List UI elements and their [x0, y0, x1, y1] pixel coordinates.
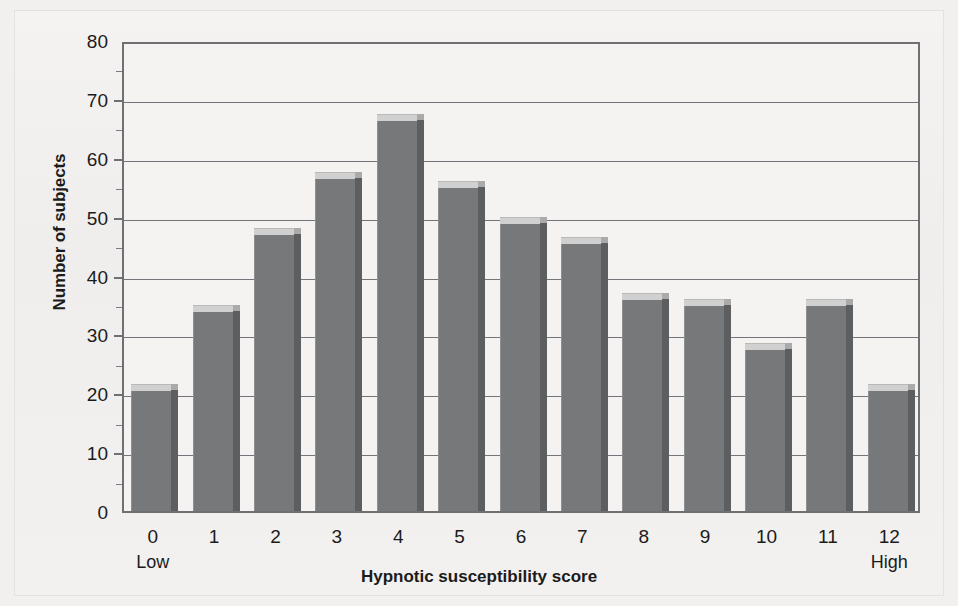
bar-top-side-face	[233, 305, 240, 311]
bar-front-face	[745, 349, 786, 511]
x-axis-tick-label: 11	[798, 527, 858, 546]
y-axis-tick-mark	[114, 394, 122, 396]
bar-chart-figure: Number of subjects 01020304050607080 012…	[0, 0, 958, 606]
bar-top-side-face	[908, 384, 915, 390]
y-axis-tick-label: 50	[48, 209, 108, 228]
bar-front-face	[193, 311, 234, 511]
bar-top-face	[254, 228, 294, 235]
y-axis-tick-label: 30	[48, 326, 108, 345]
bar	[131, 384, 178, 511]
plot-area	[122, 42, 920, 513]
bar-front-face	[377, 120, 418, 511]
bar	[622, 293, 669, 511]
y-axis-tick-label: 0	[48, 503, 108, 522]
bar	[500, 217, 547, 511]
y-axis-tick-mark	[114, 335, 122, 337]
y-axis-tick-mark	[114, 453, 122, 455]
x-axis-tick-label: 3	[307, 527, 367, 546]
bar-front-face	[315, 178, 356, 511]
bar	[438, 181, 485, 511]
x-axis-tick-label: 0	[123, 527, 183, 546]
x-axis-tick-label: 10	[737, 527, 797, 546]
bar-side-face	[233, 311, 240, 511]
bar-top-face	[561, 237, 601, 244]
bar-side-face	[355, 178, 362, 511]
x-axis-tick-label: 7	[552, 527, 612, 546]
x-axis-title: Hypnotic susceptibility score	[0, 567, 958, 587]
bar-front-face	[868, 390, 909, 511]
bar-top-side-face	[662, 293, 669, 299]
bar-top-side-face	[601, 237, 608, 243]
bar	[868, 384, 915, 511]
bar-front-face	[561, 243, 602, 511]
x-axis-tick-label: 8	[614, 527, 674, 546]
bar	[193, 305, 240, 511]
x-axis-tick-label: 2	[245, 527, 305, 546]
bar-front-face	[500, 223, 541, 511]
bar-side-face	[908, 390, 915, 511]
y-axis-tick-label: 40	[48, 268, 108, 287]
bar-top-face	[868, 384, 908, 391]
bar-top-side-face	[417, 114, 424, 120]
bar-top-face	[131, 384, 171, 391]
bar-top-face	[622, 293, 662, 300]
x-axis-tick-label: 12	[859, 527, 919, 546]
bar-top-side-face	[478, 181, 485, 187]
bar-side-face	[417, 120, 424, 511]
bar-top-face	[745, 343, 785, 350]
bar-top-face	[684, 299, 724, 306]
bar-side-face	[601, 243, 608, 511]
bar	[254, 228, 301, 511]
bar	[745, 343, 792, 511]
bar-top-face	[806, 299, 846, 306]
bar-side-face	[540, 223, 547, 511]
bar-front-face	[684, 305, 725, 511]
y-axis-tick-label: 80	[48, 32, 108, 51]
bar-front-face	[131, 390, 172, 511]
bar-top-side-face	[540, 217, 547, 223]
bar-side-face	[662, 299, 669, 511]
plot-wrapper: Number of subjects 01020304050607080 012…	[0, 0, 958, 606]
bar-front-face	[622, 299, 663, 511]
y-axis-tick-mark	[114, 277, 122, 279]
bar-front-face	[806, 305, 847, 511]
bar-top-face	[315, 172, 355, 179]
gridline	[124, 161, 918, 162]
x-axis-tick-label: 5	[430, 527, 490, 546]
bar	[684, 299, 731, 511]
bar	[377, 114, 424, 511]
bar-side-face	[478, 187, 485, 511]
gridline	[124, 102, 918, 103]
bar-side-face	[171, 390, 178, 511]
bar-top-face	[438, 181, 478, 188]
bar-top-side-face	[846, 299, 853, 305]
bar-side-face	[785, 349, 792, 511]
bar	[315, 172, 362, 511]
bar-top-face	[377, 114, 417, 121]
y-axis-tick-mark	[114, 218, 122, 220]
y-axis-tick-label: 10	[48, 444, 108, 463]
bar-top-face	[193, 305, 233, 312]
x-axis-tick-label: 4	[368, 527, 428, 546]
y-axis-tick-label: 20	[48, 385, 108, 404]
bar-side-face	[846, 305, 853, 511]
bar-top-side-face	[355, 172, 362, 178]
y-axis-tick-label: 60	[48, 150, 108, 169]
bar-front-face	[254, 234, 295, 511]
bar-side-face	[724, 305, 731, 511]
bar-top-side-face	[785, 343, 792, 349]
bar-top-side-face	[724, 299, 731, 305]
bar	[806, 299, 853, 511]
bar-top-face	[500, 217, 540, 224]
x-axis-tick-label: 6	[491, 527, 551, 546]
bar-front-face	[438, 187, 479, 511]
y-axis-tick-mark	[114, 159, 122, 161]
bar-side-face	[294, 234, 301, 511]
y-axis-tick-mark	[114, 100, 122, 102]
x-axis-tick-label: 1	[184, 527, 244, 546]
bar-top-side-face	[294, 228, 301, 234]
bar-top-side-face	[171, 384, 178, 390]
y-axis-tick-label: 70	[48, 91, 108, 110]
bar	[561, 237, 608, 511]
x-axis-tick-label: 9	[675, 527, 735, 546]
